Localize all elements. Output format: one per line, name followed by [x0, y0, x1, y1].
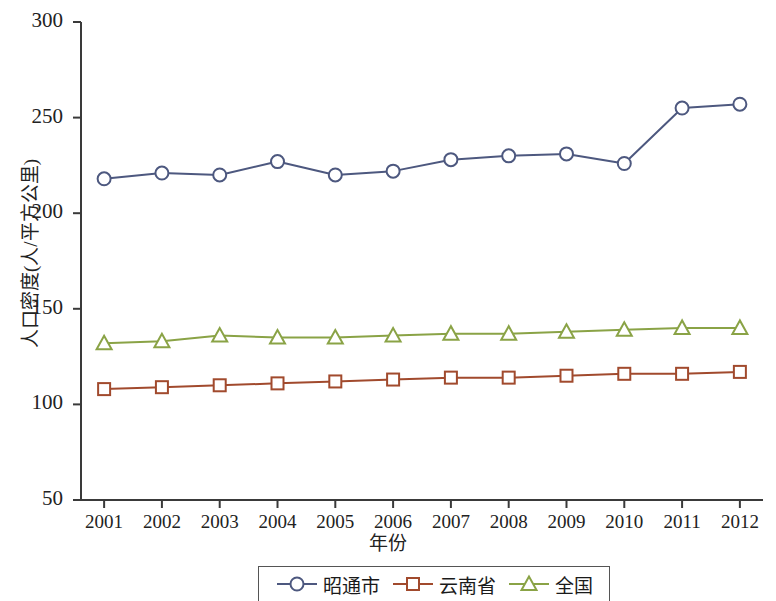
- series-triangle: [97, 320, 748, 349]
- chart-legend: 昭通市云南省全国: [258, 566, 610, 601]
- data-point-marker: [214, 379, 226, 391]
- data-point-marker: [272, 377, 284, 389]
- y-axis-tick-label: 300: [3, 8, 63, 33]
- data-point-marker: [329, 168, 342, 181]
- data-point-marker: [676, 368, 688, 380]
- data-point-marker: [213, 168, 226, 181]
- y-axis-tick-label: 150: [3, 295, 63, 320]
- x-axis-tick-label: 2004: [248, 511, 308, 533]
- data-point-marker: [444, 153, 457, 166]
- legend-marker: [290, 578, 303, 591]
- x-axis-tick-label: 2009: [536, 511, 596, 533]
- series-square: [98, 366, 746, 395]
- data-point-marker: [618, 368, 630, 380]
- legend-item[interactable]: 昭通市: [275, 571, 380, 598]
- legend-marker: [407, 578, 419, 590]
- square-marker-icon: [391, 574, 435, 594]
- data-point-marker: [676, 102, 689, 115]
- data-point-marker: [156, 381, 168, 393]
- series-line: [104, 372, 740, 389]
- legend-item[interactable]: 全国: [507, 571, 593, 598]
- x-axis-tick-label: 2010: [594, 511, 654, 533]
- data-point-marker: [503, 372, 515, 384]
- data-point-marker: [502, 149, 515, 162]
- y-axis-tick-label: 100: [3, 390, 63, 415]
- y-axis-tick-label: 200: [3, 199, 63, 224]
- x-axis-tick-label: 2011: [652, 511, 712, 533]
- legend-item-label: 昭通市: [323, 571, 380, 598]
- data-point-marker: [387, 374, 399, 386]
- data-point-marker: [560, 370, 572, 382]
- series-line: [104, 104, 740, 179]
- data-point-marker: [618, 157, 631, 170]
- data-point-marker: [271, 155, 284, 168]
- data-point-marker: [98, 383, 110, 395]
- series-line: [104, 328, 740, 343]
- x-axis-tick-label: 2008: [479, 511, 539, 533]
- y-axis-tick-label: 250: [3, 104, 63, 129]
- legend-item[interactable]: 云南省: [391, 571, 496, 598]
- data-point-marker: [733, 98, 746, 111]
- x-axis-tick-label: 2006: [363, 511, 423, 533]
- data-point-marker: [560, 147, 573, 160]
- data-point-marker: [155, 167, 168, 180]
- data-point-marker: [387, 165, 400, 178]
- legend-item-label: 云南省: [439, 571, 496, 598]
- population-density-line-chart: 人口密度(人/平方公里) 年份 50100150200250300 200120…: [0, 0, 776, 601]
- data-point-marker: [445, 372, 457, 384]
- x-axis-tick-label: 2001: [74, 511, 134, 533]
- data-point-marker: [98, 172, 111, 185]
- x-axis-tick-label: 2002: [132, 511, 192, 533]
- x-axis-tick-label: 2007: [421, 511, 481, 533]
- x-axis-tick-label: 2003: [190, 511, 250, 533]
- legend-item-label: 全国: [555, 571, 593, 598]
- data-point-marker: [734, 366, 746, 378]
- y-axis-title: 人口密度(人/平方公里): [15, 114, 42, 394]
- data-point-marker: [329, 375, 341, 387]
- circle-marker-icon: [275, 574, 319, 594]
- series-circle: [98, 98, 747, 186]
- y-axis-tick-label: 50: [3, 486, 63, 511]
- x-axis-tick-label: 2005: [305, 511, 365, 533]
- x-axis-tick-label: 2012: [710, 511, 770, 533]
- triangle-marker-icon: [507, 574, 551, 594]
